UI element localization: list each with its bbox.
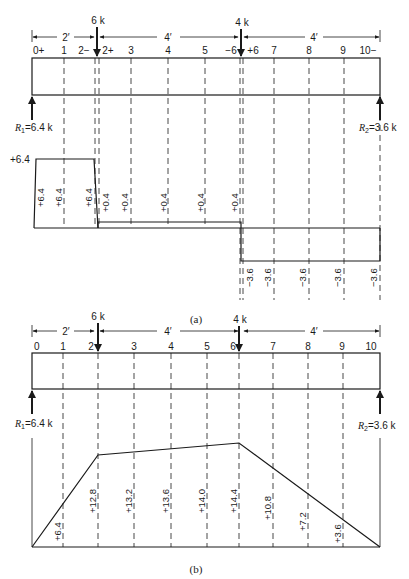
svg-text:+0.4: +0.4 [119, 193, 130, 212]
svg-text:9: 9 [340, 45, 346, 56]
reaction-left-label: R1=6.4 k [14, 122, 54, 134]
load-label: 6 k [91, 15, 105, 26]
diagram-b: 2′ 4′ 4′ 6 k 4 k 0 1 2 3 4 5 6 7 8 9 10 [14, 311, 397, 576]
svg-text:4: 4 [168, 341, 174, 352]
svg-text:10−: 10− [360, 45, 377, 56]
svg-text:+12.8: +12.8 [87, 489, 98, 513]
svg-text:2: 2 [88, 341, 94, 352]
svg-text:+0.4: +0.4 [229, 193, 240, 212]
beam-diagrams: 2′ 4′ 4′ 6 k 4 k 0+ 1 2− 2+ 3 4 5 −6 +6 … [0, 0, 409, 579]
span-label: 4′ [164, 326, 172, 337]
svg-text:+13.2: +13.2 [123, 489, 134, 513]
station-labels-b: 0 1 2 3 4 5 6 7 8 9 10 [34, 341, 377, 352]
shear-max-label: +6.4 [10, 154, 30, 165]
load-label: 6 k [91, 311, 105, 322]
svg-text:3: 3 [131, 341, 137, 352]
shear-values: +6.4 +6.4 +6.4 +0.4 +0.4 +0.4 +0.4 +0.4 … [35, 188, 379, 287]
svg-text:0+: 0+ [33, 45, 45, 56]
caption-b: (b) [190, 563, 203, 576]
load-label: 4 k [235, 17, 249, 28]
reaction-right-label: R2=3.6 k [358, 122, 398, 134]
station-labels-a: 0+ 1 2− 2+ 3 4 5 −6 +6 7 8 9 10− [33, 45, 377, 56]
svg-text:−3.6: −3.6 [262, 268, 273, 287]
svg-text:10: 10 [365, 341, 377, 352]
svg-text:2+: 2+ [102, 45, 114, 56]
svg-text:+0.4: +0.4 [195, 193, 206, 212]
svg-text:−3.6: −3.6 [244, 268, 255, 287]
svg-text:+6: +6 [247, 45, 259, 56]
svg-text:7: 7 [271, 45, 277, 56]
svg-text:−3.6: −3.6 [332, 268, 343, 287]
svg-text:+14.4: +14.4 [228, 489, 239, 513]
shear-diagram [34, 159, 380, 261]
beam-b [32, 353, 380, 389]
svg-text:4: 4 [165, 45, 171, 56]
svg-text:+6.4: +6.4 [53, 188, 64, 207]
span-label: 2′ [62, 326, 70, 337]
svg-text:8: 8 [305, 341, 311, 352]
svg-text:+6.4: +6.4 [83, 188, 94, 207]
svg-text:+13.6: +13.6 [160, 489, 171, 513]
svg-text:9: 9 [339, 341, 345, 352]
svg-text:+14.0: +14.0 [196, 489, 207, 513]
svg-text:+7.2: +7.2 [297, 512, 308, 531]
svg-text:+10.8: +10.8 [262, 496, 273, 520]
svg-text:6: 6 [230, 341, 236, 352]
svg-text:+3.6: +3.6 [332, 524, 343, 543]
span-label: 4′ [310, 32, 318, 43]
load-label: 4 k [233, 314, 247, 325]
svg-text:1: 1 [60, 341, 66, 352]
station-lines-a [64, 58, 380, 300]
svg-text:−3.6: −3.6 [297, 268, 308, 287]
svg-text:5: 5 [204, 341, 210, 352]
dimension-lines-a [32, 30, 380, 42]
svg-text:−3.6: −3.6 [368, 268, 379, 287]
reaction-left-label: R1=6.4 k [14, 418, 54, 430]
svg-text:3: 3 [128, 45, 134, 56]
caption-a: (a) [190, 313, 203, 326]
svg-text:1: 1 [61, 45, 67, 56]
diagram-a: 2′ 4′ 4′ 6 k 4 k 0+ 1 2− 2+ 3 4 5 −6 +6 … [10, 15, 398, 326]
span-label: 4′ [310, 326, 318, 337]
svg-text:+6.4: +6.4 [52, 522, 63, 541]
svg-text:+6.4: +6.4 [35, 188, 46, 207]
svg-text:0: 0 [34, 341, 40, 352]
svg-text:5: 5 [202, 45, 208, 56]
span-label: 2′ [62, 32, 70, 43]
svg-text:−6: −6 [225, 45, 237, 56]
svg-text:+0.4: +0.4 [158, 193, 169, 212]
reaction-right-label: R2=3.6 k [357, 420, 397, 432]
svg-text:2−: 2− [78, 45, 90, 56]
svg-text:+0.4: +0.4 [100, 193, 111, 212]
span-label: 4′ [164, 32, 172, 43]
dimension-lines-b [32, 325, 380, 337]
moment-values: +6.4 +12.8 +13.2 +13.6 +14.0 +14.4 +10.8… [52, 489, 343, 543]
svg-text:7: 7 [270, 341, 276, 352]
beam-a [32, 58, 380, 95]
svg-text:8: 8 [306, 45, 312, 56]
